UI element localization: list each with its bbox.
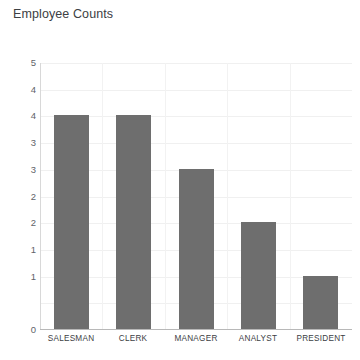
y-axis: 5443322110 (0, 63, 36, 330)
plot-area (40, 63, 352, 330)
chart-card: Employee Counts 5443322110 SALESMANCLERK… (0, 0, 360, 360)
bar-president[interactable] (303, 276, 338, 329)
y-axis-tick-label: 5 (2, 58, 36, 68)
x-axis-tick-label: CLERK (102, 333, 164, 344)
x-axis-tick-label: ANALYST (227, 333, 289, 344)
bar-analyst[interactable] (241, 222, 276, 329)
x-axis-tick-label: PRESIDENT (290, 333, 352, 344)
x-axis: SALESMANCLERKMANAGERANALYSTPRESIDENT (40, 333, 352, 349)
y-axis-tick-label: 4 (2, 111, 36, 121)
bar-clerk[interactable] (116, 115, 151, 329)
bar-series (40, 63, 352, 330)
y-axis-tick-label: 0 (2, 325, 36, 335)
y-axis-tick-label: 2 (2, 218, 36, 228)
y-axis-tick-label: 3 (2, 138, 36, 148)
y-axis-tick-label: 3 (2, 165, 36, 175)
y-axis-tick-label: 4 (2, 85, 36, 95)
bar-manager[interactable] (179, 169, 214, 329)
y-axis-tick-label: 2 (2, 192, 36, 202)
bar-salesman[interactable] (54, 115, 89, 329)
page-title: Employee Counts (13, 7, 113, 22)
x-axis-tick-label: SALESMAN (40, 333, 102, 344)
y-axis-tick-label: 1 (2, 272, 36, 282)
x-axis-tick-label: MANAGER (165, 333, 227, 344)
y-axis-tick-label: 1 (2, 245, 36, 255)
